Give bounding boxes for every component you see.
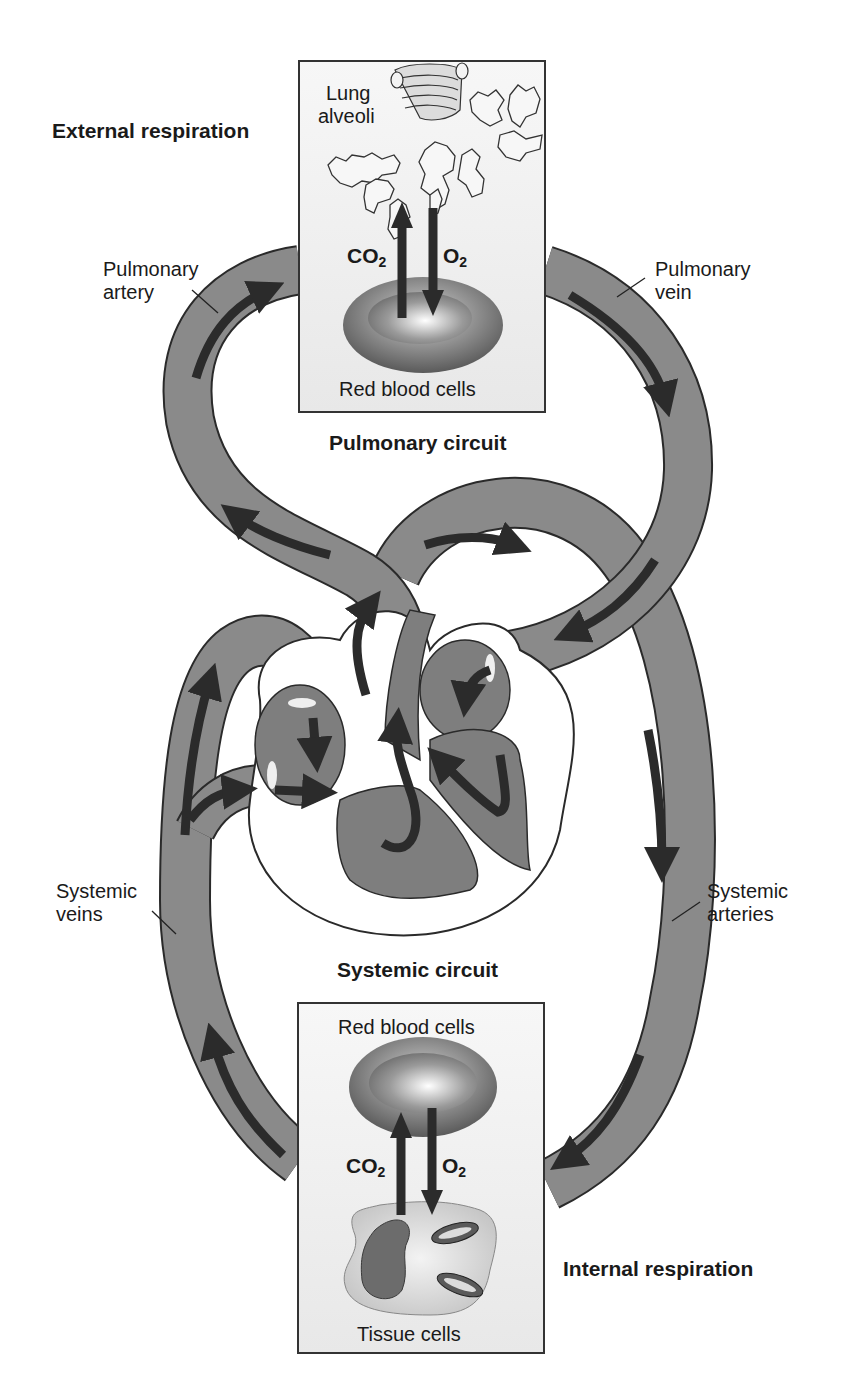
circulatory-diagram: External respiration Pulmonary circuit S… (0, 0, 857, 1399)
label-line-1: Systemic (707, 880, 788, 903)
label-line-2: veins (56, 903, 137, 926)
label-pulmonary-vein: Pulmonary vein (655, 258, 751, 304)
label-lung-alveoli: Lung alveoli (318, 82, 375, 128)
tissue-box (298, 1003, 544, 1353)
label-o2-top: O2 (443, 244, 467, 270)
label-systemic-arteries: Systemic arteries (707, 880, 788, 926)
title-systemic-circuit: Systemic circuit (337, 958, 498, 982)
label-pulmonary-artery: Pulmonary artery (103, 258, 199, 304)
title-pulmonary-circuit: Pulmonary circuit (329, 431, 506, 455)
label-line-1: Pulmonary (655, 258, 751, 281)
label-red-blood-cells-top: Red blood cells (339, 378, 476, 401)
arrow-aorta (425, 538, 515, 546)
label-line-2: artery (103, 281, 199, 304)
label-line-1: Pulmonary (103, 258, 199, 281)
label-line-2: arteries (707, 903, 788, 926)
heart (249, 610, 574, 935)
label-o2-bottom: O2 (442, 1154, 466, 1180)
label-line-2: vein (655, 281, 751, 304)
label-co2-top: CO2 (347, 244, 386, 270)
title-external-respiration: External respiration (52, 119, 249, 143)
label-systemic-veins: Systemic veins (56, 880, 137, 926)
arrow-ra-right (275, 790, 320, 792)
label-co2-bottom: CO2 (346, 1154, 385, 1180)
label-line-2: alveoli (318, 105, 375, 128)
diagram-canvas (0, 0, 857, 1399)
label-line-1: Systemic (56, 880, 137, 903)
label-line-1: Lung (318, 82, 375, 105)
label-red-blood-cells-bottom: Red blood cells (338, 1016, 475, 1039)
arrow-ra-down (313, 718, 316, 755)
title-internal-respiration: Internal respiration (563, 1257, 753, 1281)
label-tissue-cells: Tissue cells (357, 1323, 461, 1346)
